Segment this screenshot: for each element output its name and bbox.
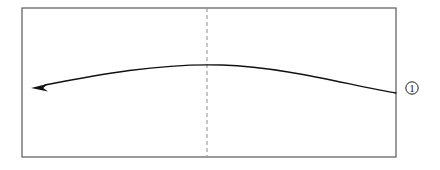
- figure-container: 1: [0, 0, 440, 170]
- callout-marker-label: 1: [409, 82, 415, 94]
- diagram-canvas: 1: [0, 0, 440, 170]
